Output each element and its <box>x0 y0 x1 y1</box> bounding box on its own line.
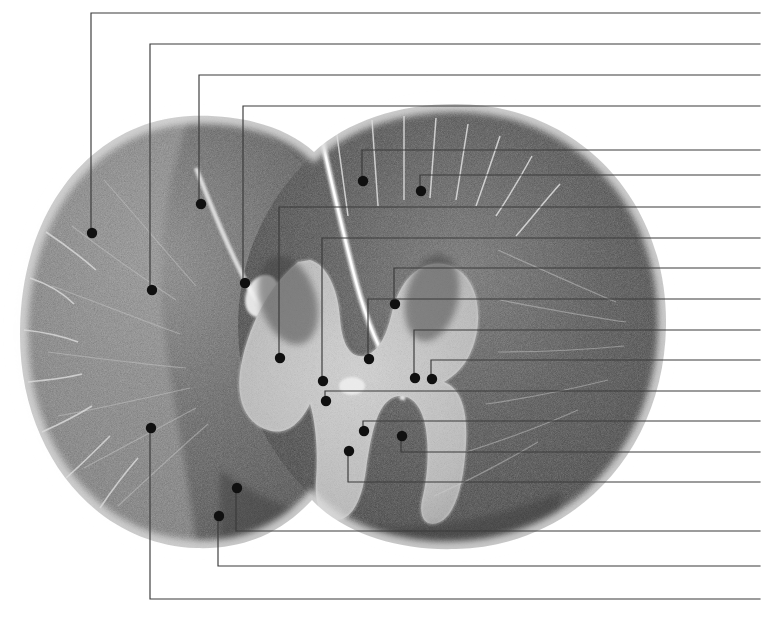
figure-canvas <box>0 0 771 623</box>
callout-dot-2[interactable] <box>147 285 157 295</box>
callout-dot-15[interactable] <box>397 431 407 441</box>
callout-dot-1[interactable] <box>87 228 97 238</box>
callout-dot-11[interactable] <box>410 373 420 383</box>
callout-dot-5[interactable] <box>358 176 368 186</box>
callout-dot-3[interactable] <box>196 199 206 209</box>
callout-dot-16[interactable] <box>344 446 354 456</box>
labeled-histology-figure <box>0 0 771 623</box>
callout-dot-19[interactable] <box>146 423 156 433</box>
callout-dot-7[interactable] <box>275 353 285 363</box>
callout-dot-14[interactable] <box>359 426 369 436</box>
callout-dot-10[interactable] <box>364 354 374 364</box>
callout-dot-12[interactable] <box>427 374 437 384</box>
callout-dot-6[interactable] <box>416 186 426 196</box>
callout-dot-4[interactable] <box>240 278 250 288</box>
callout-dot-8[interactable] <box>318 376 328 386</box>
callout-dot-13[interactable] <box>321 396 331 406</box>
